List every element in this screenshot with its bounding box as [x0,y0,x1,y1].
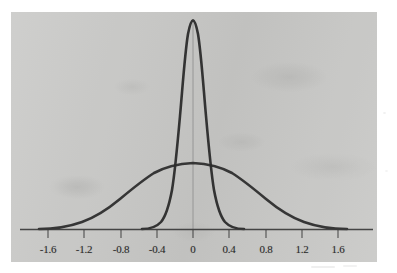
normal-distribution-chart [0,0,397,273]
x-tick-label-0: 0 [173,243,213,256]
x-tick-label--0.4: -0.4 [137,243,177,256]
x-axis-ticks [48,230,338,238]
x-tick-label-0.4: 0.4 [209,243,249,256]
x-tick-label-0.8: 0.8 [246,243,286,256]
x-tick-label--1.2: -1.2 [64,243,104,256]
x-tick-label--0.8: -0.8 [101,243,141,256]
x-tick-label-1.2: 1.2 [282,243,322,256]
x-tick-label--1.6: -1.6 [28,243,68,256]
x-tick-label-1.6: 1.6 [318,243,358,256]
figure-root: -1.6 -1.2 -0.8 -0.4 0 0.4 0.8 1.2 1.6 [0,0,397,273]
